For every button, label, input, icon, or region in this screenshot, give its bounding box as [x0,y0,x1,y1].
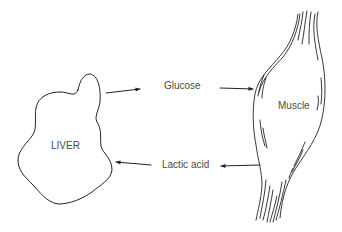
arrow-liver-to-glucose [106,89,140,93]
glucose-label: Glucose [164,80,201,91]
muscle-label: Muscle [278,100,310,111]
cori-cycle-diagram: LIVER Glucose Muscle Lactic acid [0,0,342,232]
liver-shape [18,74,112,204]
arrow-lactic-acid-to-liver [116,162,151,165]
muscle-shape [253,11,325,222]
liver-label: LIVER [51,140,80,151]
diagram-canvas [0,0,342,232]
lactic-acid-label: Lactic acid [162,159,209,170]
arrow-muscle-to-lactic-acid [221,165,260,166]
arrow-glucose-to-muscle [220,88,253,89]
